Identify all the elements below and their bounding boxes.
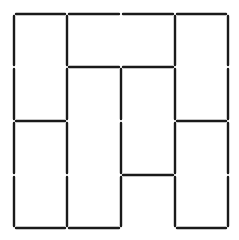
matchstick-grid — [0, 0, 239, 240]
matchstick-diagram — [0, 0, 239, 240]
